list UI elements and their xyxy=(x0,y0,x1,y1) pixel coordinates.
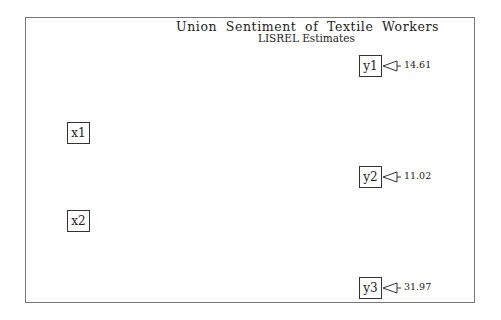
error-variance-y1: 14.61 xyxy=(404,59,431,70)
error-variance-y2: 11.02 xyxy=(404,170,431,181)
error-arrows xyxy=(0,0,501,320)
error-arrow-icon-y1 xyxy=(383,61,401,71)
error-arrow-icon-y2 xyxy=(383,172,401,182)
error-arrow-icon-y3 xyxy=(383,283,401,293)
error-variance-y3: 31.97 xyxy=(404,281,431,292)
